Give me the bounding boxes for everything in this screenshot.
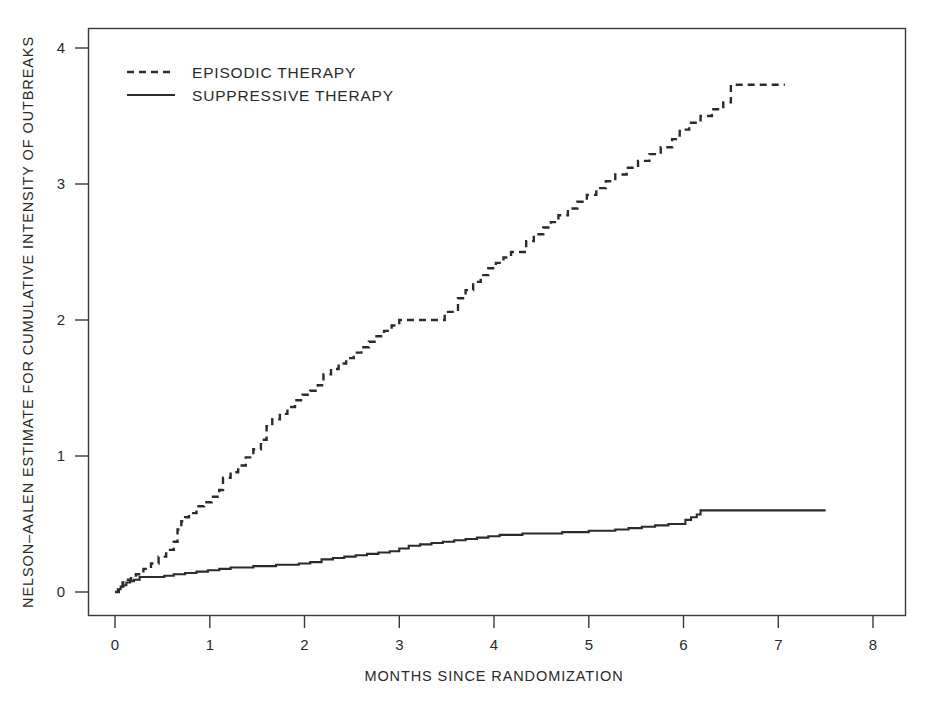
- figure-container: 0 1 2 3 4 5 6 7 8 0 1 2 3 4 MONTHS SINCE…: [0, 0, 933, 705]
- series-line-episodic: [115, 85, 785, 592]
- series-layer: [115, 85, 826, 592]
- y-tick-label-4: 4: [57, 39, 65, 56]
- y-axis-title: NELSON–AALEN ESTIMATE FOR CUMULATIVE INT…: [20, 36, 36, 608]
- y-tick-label-3: 3: [57, 175, 65, 192]
- y-tick-label-2: 2: [57, 311, 65, 328]
- x-tick-label-0: 0: [111, 636, 119, 653]
- series-line-suppressive: [115, 510, 826, 592]
- plot-frame: [89, 29, 906, 616]
- x-tick-labels: 0 1 2 3 4 5 6 7 8: [111, 636, 877, 653]
- x-axis-ticks: [115, 615, 873, 628]
- x-axis-title: MONTHS SINCE RANDOMIZATION: [364, 668, 623, 684]
- legend: EPISODIC THERAPY SUPPRESSIVE THERAPY: [127, 64, 394, 104]
- x-tick-label-7: 7: [774, 636, 782, 653]
- legend-label-episodic: EPISODIC THERAPY: [192, 64, 356, 81]
- x-tick-label-5: 5: [585, 636, 593, 653]
- x-tick-label-2: 2: [300, 636, 308, 653]
- y-tick-label-0: 0: [57, 583, 65, 600]
- y-tick-labels: 0 1 2 3 4: [57, 39, 65, 600]
- y-axis-ticks: [75, 48, 88, 592]
- x-tick-label-8: 8: [869, 636, 877, 653]
- x-tick-label-6: 6: [679, 636, 687, 653]
- x-tick-label-1: 1: [206, 636, 214, 653]
- x-tick-label-4: 4: [490, 636, 498, 653]
- x-tick-label-3: 3: [395, 636, 403, 653]
- y-tick-label-1: 1: [57, 447, 65, 464]
- chart-canvas: 0 1 2 3 4 5 6 7 8 0 1 2 3 4 MONTHS SINCE…: [0, 0, 933, 705]
- legend-label-suppressive: SUPPRESSIVE THERAPY: [192, 87, 394, 104]
